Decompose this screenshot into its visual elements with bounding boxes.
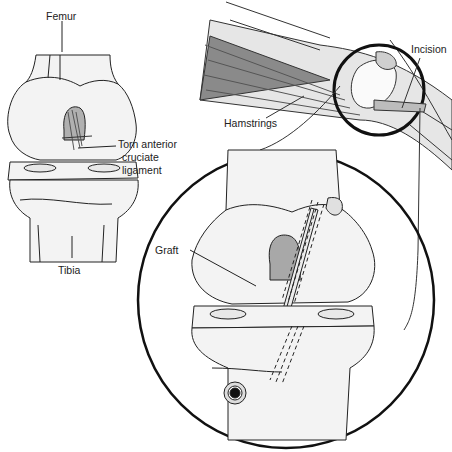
label-hamstrings: Hamstrings [224, 117, 277, 129]
label-graft: Graft [155, 244, 178, 256]
label-incision: Incision [411, 43, 447, 55]
label-tibia: Tibia [58, 264, 80, 276]
label-femur: Femur [46, 10, 76, 22]
acl-reconstruction-diagram: Femur Torn anterior cruciate ligament Ti… [0, 0, 452, 452]
illustration [0, 0, 452, 452]
label-torn-acl-2: cruciate [122, 151, 159, 163]
magnified-knee [138, 150, 434, 448]
label-torn-acl-1: Torn anterior [118, 138, 177, 150]
label-torn-acl-3: ligament [122, 164, 162, 176]
